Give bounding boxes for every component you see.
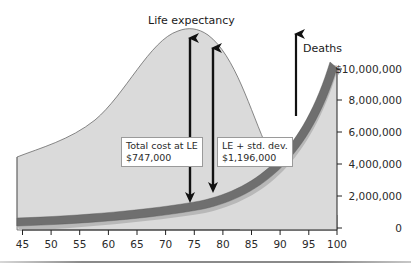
bottom-divider bbox=[0, 261, 411, 263]
y-tick-label: 8,000,000 bbox=[349, 94, 402, 106]
y-tick-label: 4,000,000 bbox=[349, 158, 402, 170]
x-axis-labels: 45 50 55 60 65 70 75 80 85 90 95 100 bbox=[16, 238, 347, 250]
x-tick-label: 55 bbox=[73, 238, 86, 250]
y-tick-label: $10,000,000 bbox=[335, 63, 402, 75]
x-tick-label: 50 bbox=[44, 238, 57, 250]
callout-le-title: Total cost at LE bbox=[126, 140, 198, 152]
x-tick-label: 70 bbox=[159, 238, 172, 250]
x-tick-label: 80 bbox=[216, 238, 229, 250]
callout-le-std-dev: LE + std. dev. $1,196,000 bbox=[217, 137, 293, 167]
x-tick-label: 60 bbox=[102, 238, 115, 250]
y-tick-label: 2,000,000 bbox=[349, 190, 402, 202]
x-tick-label: 100 bbox=[327, 238, 347, 250]
y-axis-labels: 0 2,000,000 4,000,000 6,000,000 8,000,00… bbox=[335, 63, 402, 234]
x-tick-label: 75 bbox=[188, 238, 201, 250]
deaths-label: Deaths bbox=[303, 42, 342, 55]
y-tick-label: 0 bbox=[395, 222, 402, 234]
x-tick-label: 65 bbox=[130, 238, 143, 250]
y-axis-ticks bbox=[337, 69, 342, 228]
callout-total-cost-le: Total cost at LE $747,000 bbox=[121, 137, 203, 167]
x-tick-label: 95 bbox=[302, 238, 315, 250]
callout-sd-title: LE + std. dev. bbox=[222, 140, 288, 152]
callout-sd-value: $1,196,000 bbox=[222, 152, 288, 164]
callout-le-value: $747,000 bbox=[126, 152, 198, 164]
life-expectancy-label: Life expectancy bbox=[148, 14, 235, 27]
y-tick-label: 6,000,000 bbox=[349, 126, 402, 138]
x-axis-ticks bbox=[23, 230, 338, 235]
chart: 45 50 55 60 65 70 75 80 85 90 95 100 0 2… bbox=[0, 0, 411, 268]
x-tick-label: 85 bbox=[245, 238, 258, 250]
x-tick-label: 90 bbox=[273, 238, 286, 250]
x-tick-label: 45 bbox=[16, 238, 29, 250]
